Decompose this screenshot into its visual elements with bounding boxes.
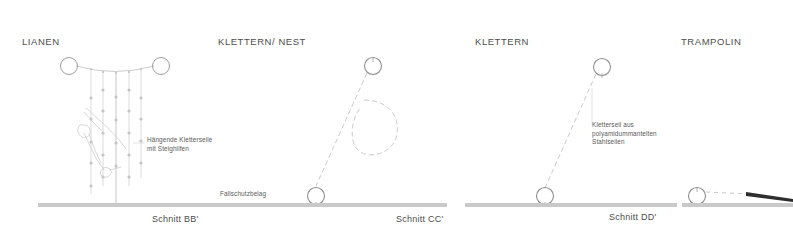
annotation-klettern-line1: Kletterseil aus (592, 121, 657, 130)
panel-trampolin: TRAMPOLIN (672, 0, 793, 237)
ground-bar-trampolin (682, 203, 793, 207)
annotation-lianen: Hängende Kletterseile mit Steighilfen (147, 136, 212, 153)
diagonal-rope (545, 74, 596, 188)
panel-klettern-nest: KLETTERN/ NEST Fallschutzbelag Schnitt C… (212, 0, 447, 237)
catenary-cable (76, 66, 154, 72)
post-left-circle (61, 58, 78, 75)
section-caption-cc: Schnitt CC' (396, 214, 443, 224)
climbing-figure (78, 108, 126, 177)
post-right-circle (153, 58, 170, 75)
drawing-sheet: LIANEN (0, 0, 793, 237)
ground-bar-lianen (38, 203, 218, 207)
top-anchor-circle (594, 59, 611, 76)
section-caption-bb: Schnitt BB' (152, 214, 199, 224)
annotation-lianen-line1: Hängende Kletterseile (147, 136, 212, 145)
klettern-drawing (462, 0, 677, 237)
nest-loop (352, 100, 397, 155)
ground-bar-klettern (465, 203, 677, 207)
klettern-nest-drawing (212, 0, 447, 237)
bottom-anchor-circle (537, 188, 554, 205)
panel-klettern: KLETTERN Kletterseil aus polyamidummante… (462, 0, 677, 237)
panel-lianen: LIANEN (0, 0, 230, 237)
annotation-klettern-line3: Stahlseilen (592, 138, 657, 147)
diagonal-rope (316, 73, 367, 186)
lianen-drawing (0, 0, 230, 237)
section-caption-dd: Schnitt DD' (609, 212, 656, 222)
annotation-klettern-line2: polyamidummantelten (592, 130, 657, 139)
annotation-fallschutzbelag: Fallschutzbelag (220, 190, 266, 199)
bottom-anchor-circle (308, 188, 325, 205)
trampoline-surface-dotted (706, 192, 750, 194)
trampolin-drawing (672, 0, 793, 237)
ground-bar-klettern-nest (215, 203, 447, 207)
trampoline-wedge (746, 192, 793, 202)
annotation-klettern: Kletterseil aus polyamidummantelten Stah… (592, 121, 657, 147)
annotation-lianen-line2: mit Steighilfen (147, 145, 212, 154)
